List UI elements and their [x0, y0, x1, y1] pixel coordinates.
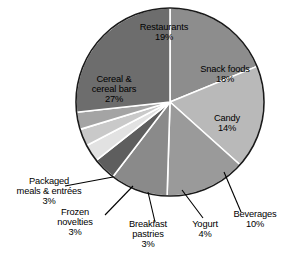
- slice-label-restaurants-pct: 19%: [118, 32, 210, 42]
- leader-line-frozen: [105, 186, 133, 215]
- slice-label-candy: Candy 14%: [196, 113, 258, 133]
- slice-label-frozen-novelties-line1: Frozen: [61, 207, 89, 217]
- slice-label-breakfast-pastries-line1: Breakfast: [129, 219, 167, 229]
- slice-label-beverages-name: Beverages: [233, 209, 276, 219]
- slice-label-beverages: Beverages 10%: [222, 209, 288, 229]
- slice-label-frozen-novelties-pct: 3%: [41, 227, 109, 237]
- slice-label-candy-pct: 14%: [196, 123, 258, 133]
- slice-label-breakfast-pastries: Breakfast pastries 3%: [112, 219, 184, 249]
- slice-label-beverages-pct: 10%: [222, 219, 288, 229]
- leader-line-breakfast: [148, 192, 155, 222]
- slice-label-cereal: Cereal & cereal bars 27%: [74, 74, 154, 104]
- pie-chart: Restaurants 19% Snack foods 18% Candy 14…: [0, 0, 289, 263]
- slice-label-breakfast-pastries-pct: 3%: [112, 239, 184, 249]
- slice-label-cereal-line1: Cereal &: [97, 74, 132, 84]
- slice-label-packaged-meals-pct: 3%: [0, 196, 98, 206]
- slice-label-packaged-meals-line2: meals & entrées: [17, 186, 82, 196]
- slice-label-candy-name: Candy: [214, 113, 240, 123]
- slice-label-cereal-pct: 27%: [74, 94, 154, 104]
- leader-line-yogurt: [182, 190, 203, 218]
- slice-label-frozen-novelties: Frozen novelties 3%: [41, 207, 109, 237]
- slice-label-snack-foods: Snack foods 18%: [186, 64, 264, 84]
- slice-label-yogurt-pct: 4%: [177, 229, 233, 239]
- slice-label-restaurants: Restaurants 19%: [118, 22, 210, 42]
- slice-label-packaged-meals-line1: Packaged: [29, 176, 69, 186]
- slice-label-cereal-line2: cereal bars: [92, 84, 136, 94]
- slice-label-frozen-novelties-line2: novelties: [57, 217, 92, 227]
- leader-line-beverages: [224, 172, 241, 212]
- slice-label-packaged-meals: Packaged meals & entrées 3%: [0, 176, 98, 206]
- slice-label-snack-foods-pct: 18%: [186, 74, 264, 84]
- slice-label-restaurants-name: Restaurants: [140, 22, 188, 32]
- slice-label-yogurt-name: Yogurt: [192, 219, 218, 229]
- slice-label-snack-foods-name: Snack foods: [200, 64, 250, 74]
- slice-label-breakfast-pastries-line2: pastries: [132, 229, 163, 239]
